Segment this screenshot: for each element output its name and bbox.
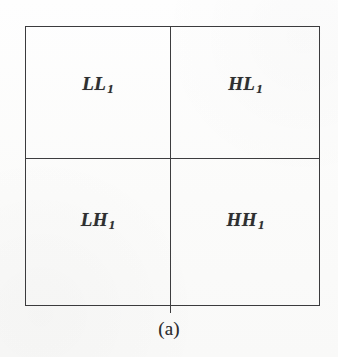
quadrant-label-ll1-base: LL [82, 73, 106, 94]
quadrant-label-ll1: LL1 [82, 73, 113, 95]
quadrant-label-hh1-subscript: 1 [258, 217, 265, 232]
quadrant-label-hh1: HH1 [227, 209, 264, 231]
subband-decomposition-figure: LL1 HL1 LH1 HH1 (a) [0, 0, 338, 357]
quadrant-label-lh1-base: LH [81, 209, 108, 230]
quadrant-bottom-right: HH1 [170, 158, 320, 306]
quadrant-top-right: HL1 [170, 26, 320, 158]
quadrant-label-hl1-subscript: 1 [256, 81, 263, 96]
quadrant-label-hl1: HL1 [228, 73, 262, 95]
quadrant-label-ll1-subscript: 1 [107, 81, 114, 96]
quadrant-top-left: LL1 [25, 26, 170, 158]
quadrant-bottom-left: LH1 [25, 158, 170, 306]
quadrant-label-hl1-base: HL [228, 73, 255, 94]
quadrant-label-lh1-subscript: 1 [109, 217, 116, 232]
quadrant-label-lh1: LH1 [81, 209, 115, 231]
quadrant-label-hh1-base: HH [227, 209, 257, 230]
figure-caption: (a) [0, 318, 338, 340]
